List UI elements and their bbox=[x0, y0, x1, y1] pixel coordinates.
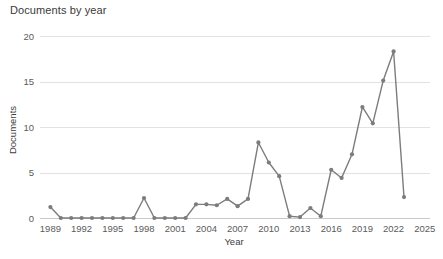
data-point[interactable] bbox=[194, 202, 198, 206]
data-point[interactable] bbox=[402, 195, 406, 199]
data-point[interactable] bbox=[121, 216, 125, 220]
data-point[interactable] bbox=[298, 215, 302, 219]
data-point[interactable] bbox=[267, 160, 271, 164]
data-point[interactable] bbox=[225, 197, 229, 201]
data-point[interactable] bbox=[360, 105, 364, 109]
x-tick-label: 2019 bbox=[352, 223, 373, 234]
data-point[interactable] bbox=[80, 216, 84, 220]
data-point[interactable] bbox=[215, 203, 219, 207]
data-point[interactable] bbox=[173, 216, 177, 220]
data-point[interactable] bbox=[236, 204, 240, 208]
data-point[interactable] bbox=[69, 216, 73, 220]
x-tick-label: 2004 bbox=[196, 223, 217, 234]
data-point[interactable] bbox=[204, 202, 208, 206]
y-tick-label: 0 bbox=[29, 213, 34, 224]
x-tick-label: 2016 bbox=[321, 223, 342, 234]
x-tick-label: 1995 bbox=[102, 223, 123, 234]
y-tick-label: 20 bbox=[23, 31, 34, 42]
x-tick-label: 1992 bbox=[71, 223, 92, 234]
data-point[interactable] bbox=[371, 121, 375, 125]
data-point[interactable] bbox=[132, 216, 136, 220]
data-point[interactable] bbox=[308, 206, 312, 210]
data-point[interactable] bbox=[152, 216, 156, 220]
data-point[interactable] bbox=[288, 214, 292, 218]
data-point[interactable] bbox=[277, 174, 281, 178]
x-tick-label: 2025 bbox=[414, 223, 435, 234]
data-point[interactable] bbox=[48, 205, 52, 209]
data-point[interactable] bbox=[329, 168, 333, 172]
y-axis-title: Documents bbox=[7, 106, 18, 154]
data-point[interactable] bbox=[256, 140, 260, 144]
data-point[interactable] bbox=[111, 216, 115, 220]
x-tick-label: 1989 bbox=[40, 223, 61, 234]
data-point[interactable] bbox=[163, 216, 167, 220]
gridlines bbox=[40, 37, 430, 219]
x-tick-label: 2013 bbox=[289, 223, 310, 234]
y-tick-label: 15 bbox=[23, 76, 34, 87]
data-point[interactable] bbox=[246, 197, 250, 201]
data-point[interactable] bbox=[90, 216, 94, 220]
x-axis-tick-labels: 1989199219951998200120042007201020132016… bbox=[40, 223, 436, 234]
y-axis-tick-labels: 05101520 bbox=[23, 31, 34, 224]
x-tick-label: 1998 bbox=[133, 223, 154, 234]
data-point[interactable] bbox=[392, 49, 396, 53]
data-point[interactable] bbox=[340, 176, 344, 180]
y-tick-label: 5 bbox=[29, 167, 34, 178]
x-tick-label: 2007 bbox=[227, 223, 248, 234]
documents-by-year-chart: Documents by year 05101520 1989199219951… bbox=[0, 0, 443, 259]
x-tick-label: 2022 bbox=[383, 223, 404, 234]
data-point[interactable] bbox=[319, 214, 323, 218]
data-point[interactable] bbox=[350, 152, 354, 156]
series-markers bbox=[48, 49, 406, 220]
data-point[interactable] bbox=[59, 216, 63, 220]
y-tick-label: 10 bbox=[23, 122, 34, 133]
data-point[interactable] bbox=[142, 196, 146, 200]
x-tick-label: 2010 bbox=[258, 223, 279, 234]
x-axis-title: Year bbox=[224, 236, 243, 247]
series-line-documents bbox=[50, 51, 404, 218]
data-point[interactable] bbox=[184, 216, 188, 220]
x-tick-label: 2001 bbox=[165, 223, 186, 234]
data-point[interactable] bbox=[381, 78, 385, 82]
data-point[interactable] bbox=[100, 216, 104, 220]
chart-plot-area: 05101520 1989199219951998200120042007201… bbox=[0, 0, 443, 259]
